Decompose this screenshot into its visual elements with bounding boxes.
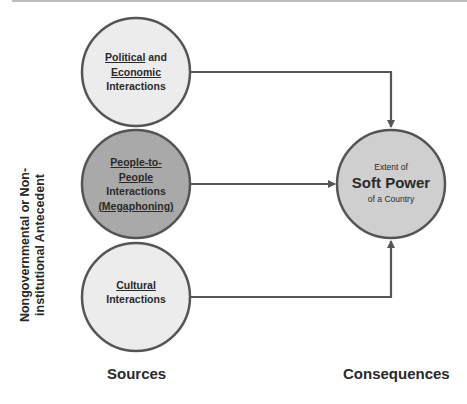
consequences-label: Consequences <box>343 365 450 382</box>
label-line: Interactions <box>106 79 166 94</box>
sources-label: Sources <box>107 365 166 382</box>
label-text: and <box>145 51 167 63</box>
antecedent-line2: institutional Antecedent <box>33 168 48 322</box>
label-line: Interactions <box>106 292 166 307</box>
label-line: People <box>119 170 153 185</box>
node-soft-power-label: Extent of Soft Power of a Country <box>336 150 446 216</box>
node-political-economic-label: Political and Economic Interactions <box>86 30 186 114</box>
label-text: (Megaphoning) <box>98 200 173 212</box>
label-line: Interactions <box>106 184 166 199</box>
label-text: People <box>119 171 153 183</box>
label-text: Political <box>105 51 145 63</box>
antecedent-line1: Nongovernmental or Non- <box>18 168 33 322</box>
soft-power-line1: Extent of <box>374 161 408 173</box>
label-line: Cultural <box>116 278 156 293</box>
label-line: Political and <box>105 50 167 65</box>
label-text: Cultural <box>116 279 156 291</box>
arrow-cultural-to-soft-power <box>190 241 391 297</box>
label-line: Economic <box>111 65 161 80</box>
node-cultural-label: Cultural Interactions <box>86 262 186 322</box>
label-line: People-to- <box>110 155 161 170</box>
node-people-to-people-label: People-to- People Interactions (Megaphon… <box>86 141 186 227</box>
label-text: Interactions <box>106 293 166 305</box>
soft-power-title: Soft Power <box>352 173 430 193</box>
label-text: Interactions <box>106 185 166 197</box>
soft-power-line3: of a Country <box>368 193 414 205</box>
arrow-political-to-soft-power <box>190 72 391 127</box>
label-text: Economic <box>111 66 161 78</box>
label-text: People-to- <box>110 156 161 168</box>
label-text: Interactions <box>106 80 166 92</box>
antecedent-vertical-label: Nongovernmental or Non- institutional An… <box>18 168 48 322</box>
label-line: (Megaphoning) <box>98 199 173 214</box>
